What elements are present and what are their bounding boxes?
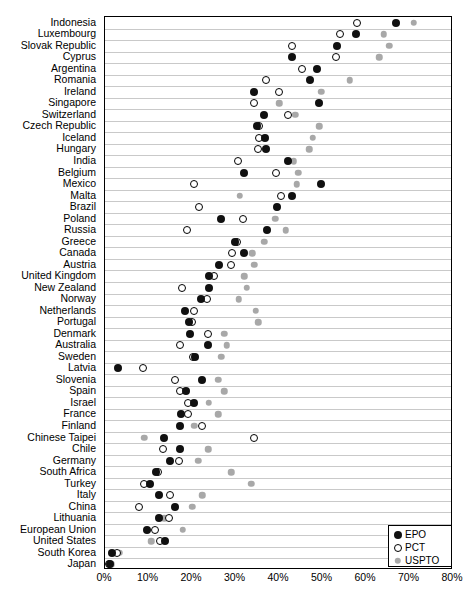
marker-glyph [394,557,401,564]
data-point-uspto [310,135,317,142]
gridline [105,409,451,410]
gridline [105,420,451,421]
category-label: Japan [67,558,96,569]
data-point-uspto [253,308,260,315]
data-point-pct [195,203,203,211]
data-point-uspto [228,469,235,476]
gridline [105,270,451,271]
gridline [105,305,451,306]
x-axis-tick-label: 20% [180,571,201,583]
data-point-pct [275,88,283,96]
data-point-pct [284,111,292,119]
x-axis-tick-label: 0% [96,571,111,583]
data-point-uspto [180,526,187,533]
category-label: Chile [72,443,96,454]
gridline [105,75,451,76]
gridline [105,132,451,133]
data-point-pct [234,157,242,165]
data-point-pct [298,65,306,73]
category-label: Netherlands [39,304,96,315]
data-point-pct [171,376,179,384]
data-point-pct [176,341,184,349]
data-point-epo [177,410,185,418]
data-point-uspto [241,273,248,280]
gridline [105,455,451,456]
data-point-uspto [411,20,418,27]
category-label: New Zealand [34,281,96,292]
data-point-epo [263,226,271,234]
category-label: China [69,500,96,511]
category-label: Sweden [58,350,96,361]
data-point-epo [190,399,198,407]
data-point-pct [190,180,198,188]
x-axis: 0%10%20%30%40%50%60%70%80% [104,571,452,591]
data-point-epo [146,480,154,488]
data-point-uspto [249,250,256,257]
gridline [105,340,451,341]
category-label: Romania [54,74,96,85]
data-point-uspto [347,77,354,84]
data-point-pct [198,422,206,430]
data-point-epo [392,19,400,27]
gridline [105,98,451,99]
data-point-epo [161,537,169,545]
data-point-pct [165,514,173,522]
data-point-uspto [189,503,196,510]
legend-label: PCT [405,542,425,553]
gridline [105,236,451,237]
data-point-uspto [195,457,202,464]
category-label: Germany [53,454,96,465]
data-point-uspto [294,181,301,188]
gridline [105,501,451,502]
data-point-uspto [236,296,243,303]
data-point-epo [240,249,248,257]
data-point-pct [254,145,262,153]
data-point-uspto [292,112,299,119]
legend-label: USPTO [405,555,439,566]
data-point-uspto [272,215,279,222]
category-label: Turkey [64,477,96,488]
category-label: Poland [63,212,96,223]
gridline [105,52,451,53]
patent-share-scatter-chart: IndonesiaLuxembourgSlovak RepublicCyprus… [0,0,466,610]
category-label: Chinese Taipei [27,431,96,442]
category-label: Denmark [53,327,96,338]
gridline [105,144,451,145]
data-point-uspto [316,123,323,130]
data-point-epo [262,145,270,153]
data-point-epo [176,445,184,453]
data-point-epo [143,526,151,534]
category-label: Iceland [62,131,96,142]
data-point-uspto [191,423,198,430]
x-axis-tick-label: 30% [224,571,245,583]
legend-label: EPO [405,529,426,540]
data-point-epo [114,364,122,372]
x-axis-tick-label: 80% [441,571,462,583]
data-point-epo [231,238,239,246]
gridline [105,386,451,387]
category-label: Hungary [56,143,96,154]
data-point-epo [181,307,189,315]
gridline [105,478,451,479]
gridline [105,443,451,444]
data-point-epo [166,457,174,465]
data-point-epo [152,468,160,476]
data-point-uspto [306,146,313,153]
data-point-epo [186,330,194,338]
data-point-epo [313,65,321,73]
data-point-epo [306,76,314,84]
data-point-uspto [251,261,258,268]
data-point-pct [151,526,159,534]
category-label: South Korea [38,546,96,557]
legend-item-pct[interactable]: PCT [393,541,451,554]
data-point-uspto [248,480,255,487]
data-point-epo [284,157,292,165]
data-point-uspto [261,238,268,245]
data-point-pct [272,169,280,177]
legend-item-epo[interactable]: EPO [393,528,451,541]
data-point-uspto [244,284,251,291]
legend-item-uspto[interactable]: USPTO [393,554,451,567]
gridline [105,121,451,122]
category-label: Argentina [51,62,96,73]
gridline [105,190,451,191]
